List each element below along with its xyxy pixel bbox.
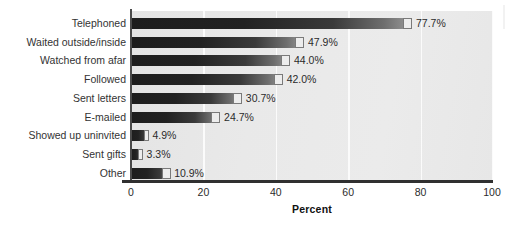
x-tick-label-60: 60 [328, 185, 368, 199]
category-axis-labels: Telephoned Waited outside/inside Watched… [0, 11, 516, 180]
category-label-followed: Followed [0, 72, 126, 86]
category-label-showed-up-uninvited: Showed up uninvited [0, 128, 126, 142]
category-label-waited-outside-inside: Waited outside/inside [0, 35, 126, 49]
x-tick-label-0: 0 [111, 185, 151, 199]
x-tick-label-80: 80 [401, 185, 441, 199]
category-label-watched-from-afar: Watched from afar [0, 53, 126, 67]
category-label-telephoned: Telephoned [0, 16, 126, 30]
x-tick-label-100: 100 [472, 185, 512, 199]
x-tick-label-40: 40 [256, 185, 296, 199]
category-label-sent-gifts: Sent gifts [0, 147, 126, 161]
x-axis-line [122, 180, 493, 183]
bar-chart: 77.7% 47.9% 44.0% 42.0% 30.7% 24.7% 4.9% [0, 0, 516, 231]
category-label-sent-letters: Sent letters [0, 91, 126, 105]
category-label-e-mailed: E-mailed [0, 110, 126, 124]
x-tick-label-20: 20 [183, 185, 223, 199]
x-axis-title: Percent [131, 203, 493, 215]
scan-artifact [503, 5, 505, 29]
category-label-other: Other [0, 166, 126, 180]
y-axis-line [130, 9, 132, 181]
